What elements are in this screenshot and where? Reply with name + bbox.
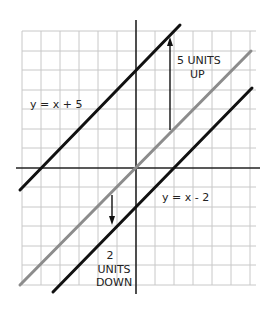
label-2: 2 [107, 249, 114, 262]
line-y-equals-x-minus-2 [53, 88, 252, 292]
graph-diagram: y = x + 5 y = x - 2 5 UNITS UP 2 UNITS D… [0, 0, 275, 313]
label-down: DOWN [96, 276, 132, 289]
label-up: UP [190, 68, 205, 81]
label-units: UNITS [97, 263, 130, 276]
label-y-x-minus-2: y = x - 2 [162, 191, 209, 204]
label-5-units: 5 UNITS [177, 54, 221, 67]
label-y-x-plus-5: y = x + 5 [30, 98, 82, 111]
arrow-down-icon [109, 195, 115, 225]
